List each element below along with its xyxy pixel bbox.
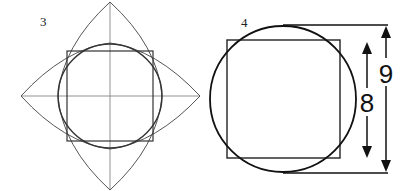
- figure-3-label: 3: [40, 14, 47, 29]
- figure-4-label: 4: [241, 15, 248, 30]
- arrowhead-down-icon: [381, 160, 391, 172]
- arrowhead-up-icon: [381, 26, 391, 38]
- square: [227, 40, 340, 158]
- circle: [210, 26, 356, 172]
- arrowhead-down-icon: [362, 146, 372, 158]
- diagram-canvas: 3 4 9 8: [0, 0, 405, 191]
- figure-4: 4 9 8: [210, 15, 396, 173]
- dimension-label-9: 9: [379, 59, 393, 89]
- arrowhead-up-icon: [362, 42, 372, 54]
- dimension-label-8: 8: [360, 88, 374, 118]
- figure-3: 3: [21, 2, 200, 190]
